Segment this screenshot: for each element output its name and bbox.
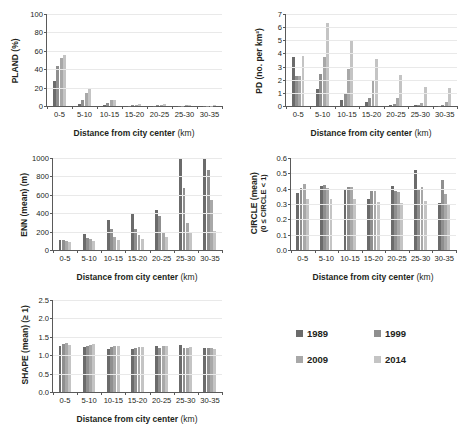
bar	[165, 346, 168, 392]
bar	[68, 242, 71, 250]
legend-swatch	[374, 330, 381, 337]
y-tick-mark	[288, 158, 291, 159]
x-tick-label: 20-25	[152, 396, 171, 405]
y-tick-label: 0.2	[276, 215, 287, 224]
x-tick-mark	[197, 106, 198, 109]
bar	[141, 347, 144, 392]
legend-label: 2014	[385, 354, 406, 365]
gridline	[286, 27, 457, 28]
pd-x-axis-label-text: Distance from city center	[311, 128, 413, 138]
y-tick-mark	[283, 40, 286, 41]
y-tick-label: 0.0	[38, 388, 49, 397]
y-tick-mark	[283, 53, 286, 54]
gridline	[286, 53, 457, 54]
circle-plot-area: 0.00.10.20.30.40.50.60-55-1010-1515-2020…	[290, 158, 456, 251]
y-tick-mark	[283, 93, 286, 94]
x-tick-label: 30-35	[434, 254, 453, 263]
x-tick-mark	[150, 392, 151, 395]
x-tick-label: 5-10	[315, 110, 330, 119]
enn-bars	[53, 158, 222, 250]
y-tick-mark	[50, 337, 53, 338]
x-tick-label: 10-15	[104, 396, 123, 405]
y-tick-label: 1000	[32, 154, 49, 163]
chart-panel-pd: PD (no. per km²) 012345670-55-1010-1515-…	[234, 4, 468, 144]
x-tick-mark	[125, 250, 126, 253]
legend-label: 1989	[307, 328, 328, 339]
bar	[302, 56, 305, 106]
bar	[141, 239, 144, 250]
pland-plot-area: 0204060801000-55-1010-1515-2020-2525-303…	[46, 14, 222, 107]
gridline	[53, 337, 222, 338]
x-tick-mark	[77, 250, 78, 253]
y-tick-mark	[50, 176, 53, 177]
shape-x-axis-label: Distance from city center (km)	[52, 414, 222, 424]
y-tick-mark	[50, 195, 53, 196]
x-tick-mark	[125, 392, 126, 395]
x-tick-mark	[222, 106, 223, 109]
x-tick-label: 10-15	[337, 110, 356, 119]
gridline	[47, 51, 222, 52]
y-tick-mark	[50, 318, 53, 319]
x-tick-label: 30-35	[200, 110, 219, 119]
bar	[448, 88, 451, 106]
gridline	[291, 219, 456, 220]
bar	[189, 233, 192, 250]
enn-x-axis-unit: (km)	[180, 272, 197, 282]
x-tick-mark	[362, 250, 363, 253]
chart-panel-circle: CIRCLE (mean) (0 ≤ CIRCLE < 1) 0.00.10.2…	[234, 148, 468, 288]
y-tick-mark	[44, 32, 47, 33]
x-tick-mark	[47, 106, 48, 109]
enn-x-axis-label-text: Distance from city center	[77, 272, 179, 282]
bar	[163, 104, 166, 106]
y-tick-mark	[50, 300, 53, 301]
pd-y-axis-label: PD (no. per km²)	[255, 18, 265, 104]
legend-label: 2009	[307, 354, 328, 365]
circle-x-axis-label-text: Distance from city center	[313, 272, 415, 282]
gridline	[53, 232, 222, 233]
bar	[306, 199, 309, 250]
y-tick-label: 0.0	[276, 246, 287, 255]
pland-x-axis-unit: (km)	[177, 128, 194, 138]
pd-x-axis-label: Distance from city center (km)	[285, 128, 457, 138]
x-tick-label: 30-35	[435, 110, 454, 119]
chart-panel-enn: ENN (mean) (m) 020040060080010000-55-101…	[0, 148, 234, 288]
x-tick-label: 25-30	[411, 110, 430, 119]
x-tick-mark	[174, 392, 175, 395]
shape-plot-area: 0.00.51.01.52.02.50-55-1010-1515-2020-25…	[52, 300, 222, 393]
x-tick-mark	[174, 250, 175, 253]
x-tick-mark	[432, 250, 433, 253]
x-tick-label: 15-20	[364, 254, 383, 263]
x-tick-label: 0-5	[60, 396, 71, 405]
y-tick-mark	[288, 219, 291, 220]
x-tick-mark	[457, 106, 458, 109]
gridline	[53, 355, 222, 356]
y-tick-mark	[288, 235, 291, 236]
enn-y-axis-label-text: ENN (mean) (m)	[19, 173, 29, 237]
gridline	[286, 93, 457, 94]
enn-y-axis-label: ENN (mean) (m)	[20, 158, 30, 252]
bar	[330, 199, 333, 250]
pd-plot-area: 012345670-55-1010-1515-2020-2525-3030-35	[285, 14, 457, 107]
shape-x-axis-label-text: Distance from city center	[77, 414, 179, 424]
x-tick-label: 15-20	[362, 110, 381, 119]
x-tick-mark	[433, 106, 434, 109]
y-tick-label: 0	[278, 102, 282, 111]
y-tick-mark	[283, 27, 286, 28]
bar	[117, 346, 120, 392]
gridline	[286, 80, 457, 81]
figure-legend: 1989199920092014	[296, 328, 446, 378]
gridline	[286, 40, 457, 41]
pland-y-axis-label-text: PLAND (%)	[10, 38, 20, 83]
y-tick-mark	[288, 189, 291, 190]
gridline	[291, 158, 456, 159]
shape-y-axis-label: SHAPE (mean) (≥ 1)	[21, 293, 31, 397]
multi-panel-figure: PLAND (%) 0204060801000-55-1010-1515-202…	[0, 0, 468, 427]
y-tick-mark	[283, 80, 286, 81]
x-tick-label: 25-30	[175, 110, 194, 119]
x-tick-label: 20-25	[150, 110, 169, 119]
y-tick-mark	[288, 173, 291, 174]
legend-swatch	[374, 356, 381, 363]
y-tick-mark	[44, 14, 47, 15]
x-tick-mark	[97, 106, 98, 109]
x-tick-mark	[315, 250, 316, 253]
